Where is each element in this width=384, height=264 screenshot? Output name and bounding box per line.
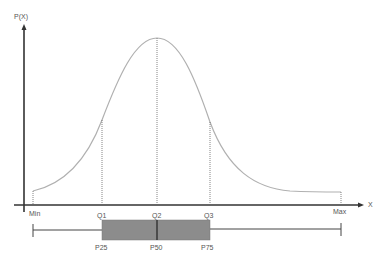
q2-label: Q2 bbox=[152, 212, 161, 220]
p50-label: P50 bbox=[150, 244, 163, 251]
p75-label: P75 bbox=[201, 244, 214, 251]
q1-label: Q1 bbox=[97, 212, 106, 220]
x-axis-arrow-icon bbox=[358, 203, 364, 208]
x-axis-label: X bbox=[368, 201, 373, 208]
p25-label: P25 bbox=[95, 244, 108, 251]
iqr-box bbox=[102, 220, 210, 240]
min-label: Min bbox=[29, 210, 40, 217]
y-axis-label: P(X) bbox=[14, 13, 28, 21]
y-axis-arrow-icon bbox=[22, 24, 27, 30]
max-label: Max bbox=[333, 208, 347, 215]
distribution-boxplot-diagram: P(X) X Min Q1 Q2 Q3 Max P25 P50 P75 bbox=[0, 0, 384, 264]
density-curve bbox=[33, 38, 341, 192]
q3-label: Q3 bbox=[204, 212, 213, 220]
